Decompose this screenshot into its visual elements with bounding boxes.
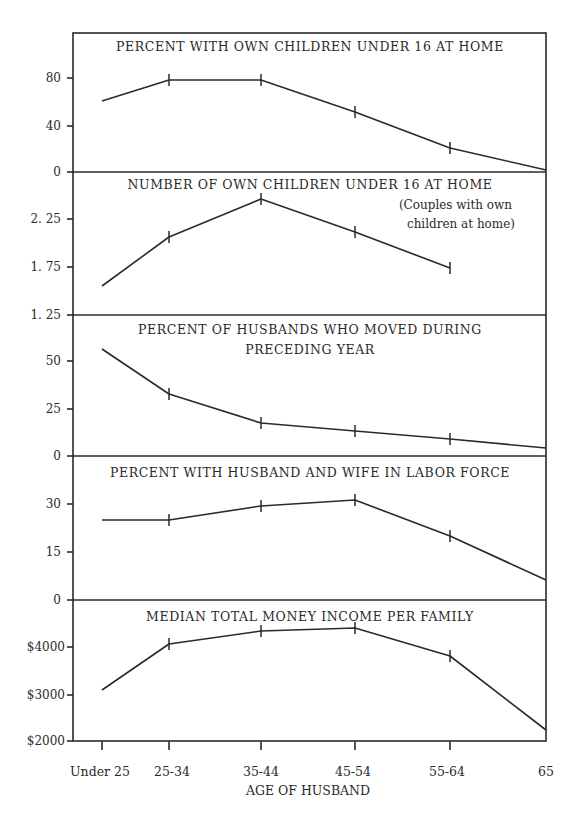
data-line xyxy=(102,622,546,730)
panel-children-percent: PERCENT WITH OWN CHILDREN UNDER 16 AT HO… xyxy=(46,39,546,179)
y-tick-label: 0 xyxy=(53,449,61,463)
chart-frame xyxy=(73,33,546,741)
y-axis: $4000 $3000 $2000 xyxy=(27,640,73,748)
y-tick-label: 25 xyxy=(46,402,61,416)
y-axis: 2. 25 1. 75 1. 25 xyxy=(30,212,73,322)
y-tick-label: $4000 xyxy=(27,640,65,654)
data-line xyxy=(102,349,546,448)
panel-title: PERCENT OF HUSBANDS WHO MOVED DURING xyxy=(138,322,482,337)
x-axis: Under 25 25-34 35-44 45-54 55-64 65 AGE … xyxy=(70,741,554,798)
y-tick-label: 1. 25 xyxy=(30,308,61,322)
x-tick-label: Under 25 xyxy=(70,764,130,779)
x-tick-label: 45-54 xyxy=(335,764,371,779)
y-tick-label: 0 xyxy=(53,165,61,179)
x-tick-label: 65 xyxy=(538,764,554,779)
x-tick-label: 25-34 xyxy=(154,764,190,779)
y-tick-label: 50 xyxy=(46,354,61,368)
y-tick-label: $2000 xyxy=(27,734,65,748)
panel-title: MEDIAN TOTAL MONEY INCOME PER FAMILY xyxy=(146,609,474,624)
panel-title: PRECEDING YEAR xyxy=(245,342,375,357)
y-tick-label: 2. 25 xyxy=(30,212,61,226)
panel-title: NUMBER OF OWN CHILDREN UNDER 16 AT HOME xyxy=(127,177,492,192)
y-axis: 30 15 0 xyxy=(46,497,73,607)
y-tick-label: 80 xyxy=(46,71,61,85)
panel-labor-force: PERCENT WITH HUSBAND AND WIFE IN LABOR F… xyxy=(46,465,546,607)
y-tick-label: $3000 xyxy=(27,688,65,702)
x-tick-label: 55-64 xyxy=(429,764,465,779)
y-tick-label: 15 xyxy=(46,545,61,559)
panel-children-number: NUMBER OF OWN CHILDREN UNDER 16 AT HOME … xyxy=(30,177,515,322)
y-tick-label: 0 xyxy=(53,593,61,607)
x-tick-label: 35-44 xyxy=(243,764,279,779)
y-tick-label: 30 xyxy=(46,497,61,511)
x-axis-title: AGE OF HUSBAND xyxy=(245,783,370,798)
y-tick-label: 1. 75 xyxy=(30,260,61,274)
data-line xyxy=(102,193,450,286)
panel-title: PERCENT WITH HUSBAND AND WIFE IN LABOR F… xyxy=(110,465,510,480)
panel-subtitle: (Couples with own xyxy=(399,198,512,212)
data-line xyxy=(102,494,546,580)
panel-income: MEDIAN TOTAL MONEY INCOME PER FAMILY $40… xyxy=(27,609,546,748)
panel-moved: PERCENT OF HUSBANDS WHO MOVED DURING PRE… xyxy=(46,322,546,463)
stacked-line-chart: PERCENT WITH OWN CHILDREN UNDER 16 AT HO… xyxy=(0,0,567,820)
y-axis: 50 25 0 xyxy=(46,354,73,463)
y-tick-label: 40 xyxy=(46,119,61,133)
y-axis: 80 40 0 xyxy=(46,71,73,179)
data-line xyxy=(102,74,546,170)
panel-title: PERCENT WITH OWN CHILDREN UNDER 16 AT HO… xyxy=(116,39,504,54)
panel-subtitle: children at home) xyxy=(407,217,515,231)
